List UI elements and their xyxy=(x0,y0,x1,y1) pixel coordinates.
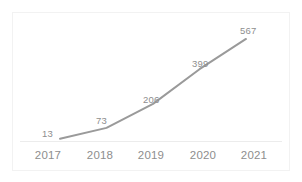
data-label-2021: 567 xyxy=(240,26,256,36)
x-tick-label-2021: 2021 xyxy=(241,150,267,162)
line-series-path xyxy=(60,39,246,139)
data-label-2017: 13 xyxy=(42,129,53,139)
chart-container: 13 73 206 399 567 2017 2018 2019 2020 20… xyxy=(0,0,302,182)
x-tick-label-2019: 2019 xyxy=(138,150,164,162)
data-label-2020: 399 xyxy=(192,59,208,69)
x-tick-label-2018: 2018 xyxy=(87,150,113,162)
data-label-2018: 73 xyxy=(96,116,107,126)
x-tick-label-2020: 2020 xyxy=(190,150,216,162)
x-tick-label-2017: 2017 xyxy=(35,150,61,162)
plot-area: 13 73 206 399 567 2017 2018 2019 2020 20… xyxy=(0,0,302,182)
data-label-2019: 206 xyxy=(143,95,159,105)
